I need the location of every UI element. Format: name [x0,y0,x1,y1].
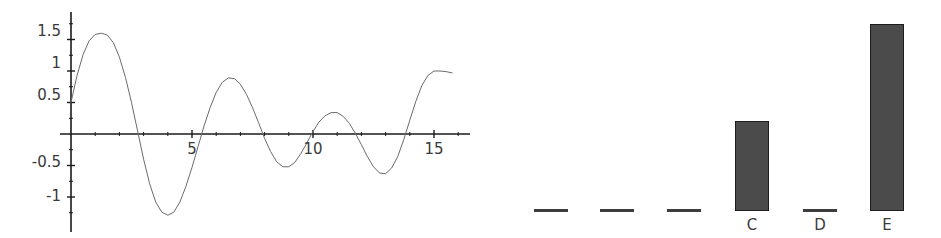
line-plot-svg [0,0,480,238]
x-tick-label-1: 10 [293,142,333,157]
bar-d[interactable] [803,209,837,212]
y-tick-label-2: 0.5 [0,88,61,103]
damped-oscillation-curve [71,33,452,215]
y-tick-label-4: -1 [0,189,61,204]
y-tick-label-0: 1.5 [0,24,61,39]
bar-0[interactable] [534,209,568,212]
figure-canvas: 1.510.5-0.5-1 51015 CDE [0,0,941,238]
x-tick-label-0: 5 [172,142,212,157]
x-tick-label-2: 15 [414,142,454,157]
bar-label-c: C [722,218,782,233]
bar-label-e: E [857,218,917,233]
bar-c[interactable] [735,121,769,211]
bar-label-d: D [790,218,850,233]
bar-1[interactable] [600,209,634,212]
bar-2[interactable] [667,209,701,212]
bar-chart-panel: CDE [480,0,941,238]
line-plot-panel: 1.510.5-0.5-1 51015 [0,0,480,238]
y-tick-label-1: 1 [0,56,61,71]
bar-e[interactable] [870,24,904,211]
y-tick-label-3: -0.5 [0,155,61,170]
